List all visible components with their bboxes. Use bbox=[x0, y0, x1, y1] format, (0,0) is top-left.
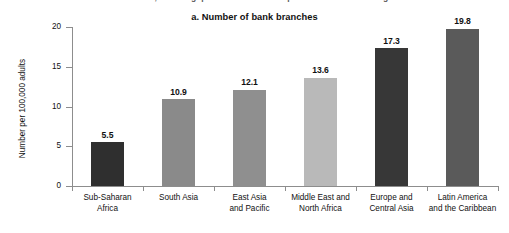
bar bbox=[446, 29, 479, 186]
x-axis-tick bbox=[285, 186, 286, 191]
x-axis-category-label-line: Central Asia bbox=[356, 204, 427, 215]
y-axis-tick-label: 0 bbox=[36, 182, 61, 190]
x-axis-category-label-line: Africa bbox=[72, 204, 143, 215]
x-axis-tick bbox=[356, 186, 357, 191]
plot-area: 5.510.912.113.617.319.8 bbox=[72, 27, 498, 186]
y-axis-title: Number per 100,000 adults bbox=[18, 34, 27, 184]
x-axis-category-label: Europe andCentral Asia bbox=[356, 193, 427, 214]
chart-title: a. Number of bank branches bbox=[0, 12, 509, 22]
x-axis-category-label-line: and the Caribbean bbox=[427, 204, 498, 215]
x-axis-category-label-line: Europe and bbox=[356, 193, 427, 204]
x-axis-category-label: East Asiaand Pacific bbox=[214, 193, 285, 214]
bar-group: 10.9 bbox=[162, 27, 195, 186]
bar-value-label: 19.8 bbox=[454, 17, 471, 26]
y-axis-tick-label: 10 bbox=[36, 103, 61, 111]
bar bbox=[91, 142, 124, 186]
y-axis-tick-label: 5 bbox=[36, 142, 61, 150]
y-axis-tick-label: 20 bbox=[36, 23, 61, 31]
x-axis-tick bbox=[214, 186, 215, 191]
bar-group: 17.3 bbox=[375, 27, 408, 186]
y-axis-tick-label: 15 bbox=[36, 63, 61, 71]
bar-value-label: 5.5 bbox=[102, 131, 114, 140]
bar-value-label: 17.3 bbox=[383, 37, 400, 46]
bank-branches-figure: the world, but the gaps between rich and… bbox=[0, 0, 509, 233]
x-axis-tick bbox=[143, 186, 144, 191]
bar bbox=[304, 78, 337, 186]
bar-value-label: 12.1 bbox=[241, 78, 258, 87]
x-axis-category-label-line: East Asia bbox=[214, 193, 285, 204]
bar bbox=[375, 48, 408, 186]
x-axis-category-label: Latin Americaand the Caribbean bbox=[427, 193, 498, 214]
bar-group: 12.1 bbox=[233, 27, 266, 186]
bar-value-label: 10.9 bbox=[170, 88, 187, 97]
x-axis-tick bbox=[72, 186, 73, 191]
x-axis-category-label: Middle East andNorth Africa bbox=[285, 193, 356, 214]
bar-group: 13.6 bbox=[304, 27, 337, 186]
x-axis-category-label-line: South Asia bbox=[143, 193, 214, 204]
x-axis-tick bbox=[498, 186, 499, 191]
bar-group: 19.8 bbox=[446, 27, 479, 186]
bar bbox=[233, 90, 266, 186]
cut-off-caption: the world, but the gaps between rich and… bbox=[0, 0, 509, 4]
bar-value-label: 13.6 bbox=[312, 66, 329, 75]
x-axis-category-label-line: Sub-Saharan bbox=[72, 193, 143, 204]
bar-group: 5.5 bbox=[91, 27, 124, 186]
x-axis-category-label-line: and Pacific bbox=[214, 204, 285, 215]
x-axis-category-label-line: Middle East and bbox=[285, 193, 356, 204]
x-axis-category-label: Sub-SaharanAfrica bbox=[72, 193, 143, 214]
x-axis-category-label: South Asia bbox=[143, 193, 214, 204]
x-axis-category-label-line: Latin America bbox=[427, 193, 498, 204]
x-axis-category-label-line: North Africa bbox=[285, 204, 356, 215]
bar bbox=[162, 99, 195, 186]
x-axis-tick bbox=[427, 186, 428, 191]
